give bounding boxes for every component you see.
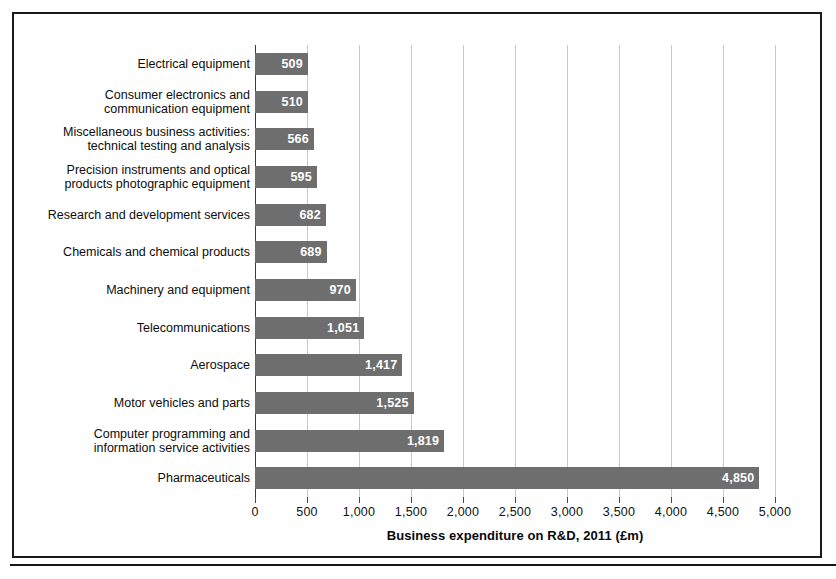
category-label: Computer programming and information ser… — [18, 427, 250, 455]
category-label: Motor vehicles and parts — [18, 396, 250, 410]
bar-value-label: 1,525 — [376, 396, 408, 410]
bar-row[interactable]: 509 — [255, 53, 775, 75]
x-axis-tick-label: 1,500 — [395, 505, 427, 519]
x-axis-tick — [255, 497, 256, 503]
bar-row[interactable]: 595 — [255, 166, 775, 188]
bar[interactable]: 689 — [255, 241, 327, 263]
x-axis-tick — [775, 497, 776, 503]
x-axis-tick-label: 4,500 — [707, 505, 739, 519]
bar[interactable]: 970 — [255, 279, 356, 301]
bar-row[interactable]: 510 — [255, 91, 775, 113]
page-bottom-rule — [10, 564, 836, 566]
category-label: Electrical equipment — [18, 57, 250, 71]
x-axis-tick-label: 2,500 — [499, 505, 531, 519]
bar-row[interactable]: 566 — [255, 128, 775, 150]
x-axis-tick — [515, 497, 516, 503]
bar-row[interactable]: 1,051 — [255, 317, 775, 339]
x-axis-tick — [723, 497, 724, 503]
x-axis-tick — [307, 497, 308, 503]
x-axis-tick-label: 0 — [251, 505, 258, 519]
category-label: Aerospace — [18, 358, 250, 372]
bar-row[interactable]: 1,417 — [255, 354, 775, 376]
x-axis-tick — [619, 497, 620, 503]
gridline — [775, 45, 776, 497]
x-axis-tick — [411, 497, 412, 503]
x-axis-tick — [671, 497, 672, 503]
bar-row[interactable]: 4,850 — [255, 467, 775, 489]
bar-value-label: 509 — [281, 57, 302, 71]
bar-value-label: 4,850 — [722, 471, 754, 485]
bar-value-label: 1,819 — [407, 434, 439, 448]
bar-row[interactable]: 1,819 — [255, 430, 775, 452]
chart-figure: Electrical equipmentConsumer electronics… — [0, 0, 836, 579]
category-label: Consumer electronics and communication e… — [18, 88, 250, 116]
x-axis-tick — [359, 497, 360, 503]
bar[interactable]: 1,051 — [255, 317, 364, 339]
bar-row[interactable]: 689 — [255, 241, 775, 263]
category-label: Telecommunications — [18, 321, 250, 335]
bar[interactable]: 1,525 — [255, 392, 414, 414]
x-axis-tick-label: 500 — [296, 505, 317, 519]
category-label: Research and development services — [18, 208, 250, 222]
bar[interactable]: 682 — [255, 204, 326, 226]
category-label: Pharmaceuticals — [18, 471, 250, 485]
bar-value-label: 595 — [290, 170, 311, 184]
x-axis-tick-label: 5,000 — [759, 505, 791, 519]
bar[interactable]: 566 — [255, 128, 314, 150]
bar[interactable]: 595 — [255, 166, 317, 188]
bar-value-label: 689 — [300, 245, 321, 259]
x-axis-tick — [463, 497, 464, 503]
category-label: Precision instruments and optical produc… — [18, 163, 250, 191]
bar[interactable]: 510 — [255, 91, 308, 113]
x-axis-tick-label: 2,000 — [447, 505, 479, 519]
bar[interactable]: 1,819 — [255, 430, 444, 452]
x-axis-tick-label: 3,500 — [603, 505, 635, 519]
x-axis-tick — [567, 497, 568, 503]
bar-value-label: 1,051 — [327, 321, 359, 335]
bar-row[interactable]: 1,525 — [255, 392, 775, 414]
bar-value-label: 510 — [282, 95, 303, 109]
category-label: Machinery and equipment — [18, 283, 250, 297]
bar[interactable]: 4,850 — [255, 467, 759, 489]
bar-value-label: 1,417 — [365, 358, 397, 372]
bar-value-label: 566 — [287, 132, 308, 146]
category-label: Miscellaneous business activities: techn… — [18, 125, 250, 153]
bar-value-label: 970 — [329, 283, 350, 297]
x-axis-tick-label: 1,000 — [343, 505, 375, 519]
x-axis-title: Business expenditure on R&D, 2011 (£m) — [255, 528, 775, 543]
category-label: Chemicals and chemical products — [18, 245, 250, 259]
bar-value-label: 682 — [299, 208, 320, 222]
x-axis-tick-label: 4,000 — [655, 505, 687, 519]
plot-area: 05001,0001,5002,0002,5003,0003,5004,0004… — [255, 45, 775, 497]
x-axis-tick-label: 3,000 — [551, 505, 583, 519]
bar[interactable]: 509 — [255, 53, 308, 75]
bar-row[interactable]: 682 — [255, 204, 775, 226]
bar-row[interactable]: 970 — [255, 279, 775, 301]
category-axis-labels: Electrical equipmentConsumer electronics… — [14, 45, 250, 497]
bar[interactable]: 1,417 — [255, 354, 402, 376]
